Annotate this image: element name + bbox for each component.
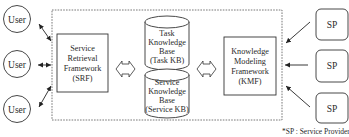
kmf-label-line: Modeling <box>234 57 266 66</box>
user-node: User <box>4 6 31 33</box>
task-kb-cylinder: Task Knowledge Base (Task KB) <box>145 16 189 70</box>
service-provider-node: SP <box>316 50 348 82</box>
user-arrow <box>39 24 51 41</box>
kmf-label-line: (KMF) <box>238 77 261 86</box>
srf-kb-exchange-arrow <box>116 61 135 77</box>
kmf-label-line: Knowledge <box>231 47 269 56</box>
task-kb-label-line: Task <box>159 29 175 38</box>
service-kb-cylinder: Service Knowledge Base (Service KB) <box>145 69 189 118</box>
kmf-box: Knowledge Modeling Framework (KMF) <box>224 37 276 95</box>
srf-label-line: Service <box>70 44 95 53</box>
service-kb-label-line: Service <box>155 78 180 87</box>
sp-label: SP <box>327 20 338 30</box>
task-kb-label-line: Base <box>159 47 175 56</box>
user-node: User <box>4 51 31 78</box>
srf-label-line: Framework <box>64 64 103 73</box>
srf-label-line: Retrieval <box>67 54 98 63</box>
sp-label: SP <box>327 61 338 71</box>
user-node: User <box>4 96 31 123</box>
service-kb-label-line: Base <box>159 96 175 105</box>
footnote: *SP : Service Provider <box>282 127 349 136</box>
user-label: User <box>8 60 27 70</box>
task-kb-label-line: (Task KB) <box>150 56 184 65</box>
service-provider-node: SP <box>316 93 348 123</box>
kb-kmf-exchange-arrow <box>197 61 216 77</box>
service-kb-label-line: (Service KB) <box>145 105 189 114</box>
user-label: User <box>8 15 27 25</box>
service-kb-label-line: Knowledge <box>148 87 186 96</box>
sp-arrow <box>286 22 310 43</box>
sp-arrow <box>286 86 310 107</box>
user-arrow <box>39 86 51 107</box>
sp-label: SP <box>327 104 338 114</box>
user-label: User <box>8 105 27 115</box>
architecture-diagram: User User User Service Retrieval Framewo… <box>0 0 349 137</box>
srf-box: Service Retrieval Framework (SRF) <box>57 34 108 92</box>
kmf-label-line: Framework <box>231 67 270 76</box>
service-provider-node: SP <box>316 9 348 40</box>
task-kb-label-line: Knowledge <box>148 38 186 47</box>
srf-label-line: (SRF) <box>72 74 92 83</box>
